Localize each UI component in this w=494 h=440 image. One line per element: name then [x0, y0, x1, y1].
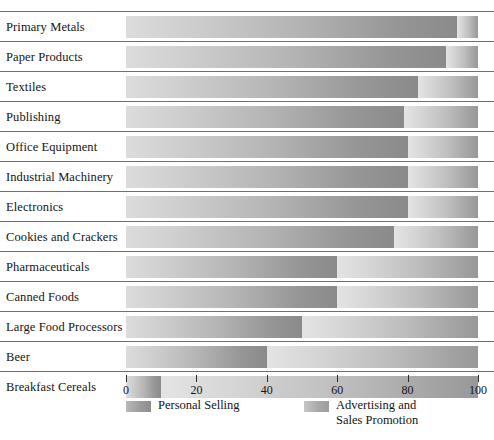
bar-track	[126, 256, 478, 278]
bar-segment-personal-selling	[126, 256, 337, 278]
category-label: Office Equipment	[6, 132, 97, 162]
bar-segment-advertising	[267, 346, 478, 368]
category-label: Industrial Machinery	[6, 162, 113, 192]
bar-track	[126, 46, 478, 68]
bar-track	[126, 226, 478, 248]
category-label: Primary Metals	[6, 12, 85, 42]
bar-track	[126, 286, 478, 308]
category-label: Textiles	[6, 72, 46, 102]
bar-segment-personal-selling	[126, 286, 337, 308]
axis-tick-label: 80	[402, 383, 414, 398]
legend-item-personal-selling[interactable]: Personal Selling	[126, 398, 240, 413]
bar-track	[126, 376, 478, 398]
legend-label-advertising: Advertising and Sales Promotion	[336, 398, 418, 427]
bar-segment-personal-selling	[126, 226, 394, 248]
category-label: Paper Products	[6, 42, 83, 72]
bar-segment-advertising	[408, 136, 478, 158]
bar-segment-advertising	[457, 16, 478, 38]
bar-segment-personal-selling	[126, 316, 302, 338]
chart-rows: Primary MetalsPaper ProductsTextilesPubl…	[0, 11, 494, 401]
bar-segment-personal-selling	[126, 106, 404, 128]
category-label: Electronics	[6, 192, 63, 222]
chart-legend: Personal Selling Advertising and Sales P…	[0, 398, 494, 440]
bar-segment-personal-selling	[126, 196, 408, 218]
chart-row: Cookies and Crackers	[0, 221, 494, 251]
category-label: Canned Foods	[6, 282, 79, 312]
axis-tick	[126, 375, 127, 382]
axis-tick-label: 20	[190, 383, 202, 398]
bar-segment-advertising	[418, 76, 478, 98]
chart-row: Large Food Processors	[0, 311, 494, 341]
bar-segment-advertising	[302, 316, 478, 338]
bar-segment-advertising	[337, 286, 478, 308]
bar-segment-advertising	[161, 376, 478, 398]
axis-tick-label: 40	[261, 383, 273, 398]
bar-segment-personal-selling	[126, 166, 408, 188]
chart-row: Publishing	[0, 101, 494, 131]
category-label: Pharmaceuticals	[6, 252, 89, 282]
axis-tick-label: 100	[469, 383, 487, 398]
bar-segment-advertising	[404, 106, 478, 128]
bar-track	[126, 196, 478, 218]
chart-row: Breakfast Cereals	[0, 371, 494, 401]
chart-row: Paper Products	[0, 41, 494, 71]
chart-row: Industrial Machinery	[0, 161, 494, 191]
category-label: Publishing	[6, 102, 61, 132]
category-label: Cookies and Crackers	[6, 222, 118, 252]
axis-tick	[478, 375, 479, 382]
chart-row: Canned Foods	[0, 281, 494, 311]
bar-track	[126, 76, 478, 98]
bar-track	[126, 16, 478, 38]
axis-tick	[408, 375, 409, 382]
axis-tick-label: 60	[331, 383, 343, 398]
bar-segment-advertising	[408, 196, 478, 218]
bar-track	[126, 106, 478, 128]
axis-tick	[337, 375, 338, 382]
bar-track	[126, 346, 478, 368]
legend-label-personal-selling: Personal Selling	[158, 398, 240, 413]
legend-item-advertising[interactable]: Advertising and Sales Promotion	[304, 398, 418, 427]
axis-tick-label: 0	[123, 383, 129, 398]
chart-row: Primary Metals	[0, 11, 494, 41]
bar-segment-advertising	[337, 256, 478, 278]
axis-rule	[0, 371, 494, 372]
chart-row: Beer	[0, 341, 494, 371]
axis-tick	[196, 375, 197, 382]
bar-segment-advertising	[408, 166, 478, 188]
legend-swatch-advertising	[304, 401, 329, 412]
bar-segment-advertising	[394, 226, 478, 248]
bar-segment-personal-selling	[126, 346, 267, 368]
bar-track	[126, 316, 478, 338]
chart-row: Textiles	[0, 71, 494, 101]
bar-segment-personal-selling	[126, 46, 446, 68]
bar-segment-personal-selling	[126, 16, 457, 38]
bar-segment-personal-selling	[126, 376, 161, 398]
category-label: Beer	[6, 342, 30, 372]
axis-tick	[267, 375, 268, 382]
bar-segment-advertising	[446, 46, 478, 68]
bar-segment-personal-selling	[126, 136, 408, 158]
legend-swatch-personal-selling	[126, 401, 151, 412]
bar-track	[126, 136, 478, 158]
chart-row: Electronics	[0, 191, 494, 221]
stacked-bar-chart: Primary MetalsPaper ProductsTextilesPubl…	[0, 0, 494, 440]
bar-segment-personal-selling	[126, 76, 418, 98]
chart-row: Office Equipment	[0, 131, 494, 161]
chart-row: Pharmaceuticals	[0, 251, 494, 281]
bar-track	[126, 166, 478, 188]
category-label: Large Food Processors	[6, 312, 122, 342]
